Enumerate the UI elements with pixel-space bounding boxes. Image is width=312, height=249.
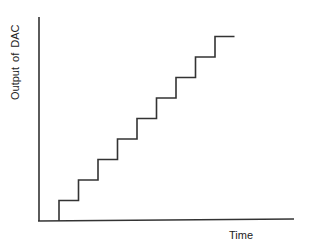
y-axis-label: Output of DAC xyxy=(9,30,23,100)
x-axis xyxy=(38,219,294,221)
staircase-line xyxy=(59,37,235,222)
plot-area xyxy=(0,0,312,249)
dac-staircase-diagram: Output of DAC Time xyxy=(0,0,312,249)
x-axis-label: Time xyxy=(229,229,253,241)
